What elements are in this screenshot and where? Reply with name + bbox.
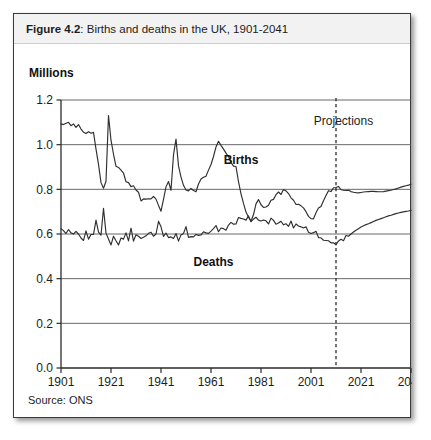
y-tick-label-2: 0.4 bbox=[36, 272, 53, 286]
chart-plot-area: 0.00.20.40.60.81.01.21901192119411961198… bbox=[14, 14, 412, 419]
series-line-births bbox=[61, 116, 411, 222]
series-line-deaths bbox=[61, 208, 411, 245]
figure-card: Figure 4.2: Births and deaths in the UK,… bbox=[13, 13, 411, 418]
annotation-deaths: Deaths bbox=[193, 255, 233, 269]
x-tick-label-5: 2001 bbox=[298, 375, 325, 389]
annotation-projections: Projections bbox=[314, 114, 373, 128]
annotation-births: Births bbox=[224, 153, 259, 167]
x-tick-label-1: 1921 bbox=[98, 375, 125, 389]
figure-source: Source: ONS bbox=[28, 394, 93, 406]
y-tick-label-5: 1.0 bbox=[36, 138, 53, 152]
y-tick-label-6: 1.2 bbox=[36, 93, 53, 107]
x-tick-label-6: 2021 bbox=[348, 375, 375, 389]
x-tick-label-3: 1961 bbox=[198, 375, 225, 389]
y-tick-label-1: 0.2 bbox=[36, 317, 53, 331]
y-tick-label-4: 0.8 bbox=[36, 183, 53, 197]
y-tick-label-3: 0.6 bbox=[36, 227, 53, 241]
y-tick-label-0: 0.0 bbox=[36, 361, 53, 375]
x-tick-label-4: 1981 bbox=[248, 375, 275, 389]
x-tick-label-7: 2041 bbox=[398, 375, 412, 389]
x-tick-label-2: 1941 bbox=[148, 375, 175, 389]
x-tick-label-0: 1901 bbox=[48, 375, 75, 389]
births-deaths-line-chart: 0.00.20.40.60.81.01.21901192119411961198… bbox=[14, 14, 412, 419]
